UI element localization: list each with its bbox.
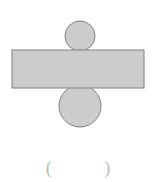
answer-input-gap[interactable] bbox=[52, 167, 104, 168]
figure-canvas: ( ) bbox=[0, 0, 156, 182]
top-circle-shape bbox=[65, 21, 95, 51]
answer-blank[interactable]: ( ) bbox=[0, 152, 156, 182]
horizontal-bar-shape bbox=[12, 50, 144, 88]
bottom-circle-shape bbox=[59, 85, 101, 127]
right-parenthesis: ) bbox=[104, 158, 110, 177]
